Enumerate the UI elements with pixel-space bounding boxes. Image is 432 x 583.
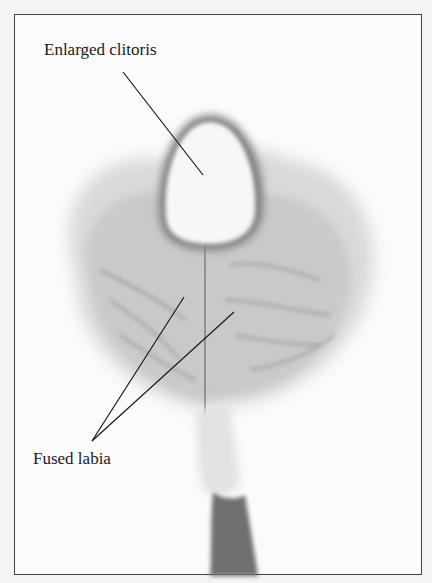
anatomical-illustration — [0, 0, 432, 583]
label-fused-labia: Fused labia — [33, 449, 111, 469]
label-enlarged-clitoris: Enlarged clitoris — [44, 40, 157, 60]
lower-structure — [195, 405, 258, 576]
clitoris-shape — [159, 115, 263, 250]
